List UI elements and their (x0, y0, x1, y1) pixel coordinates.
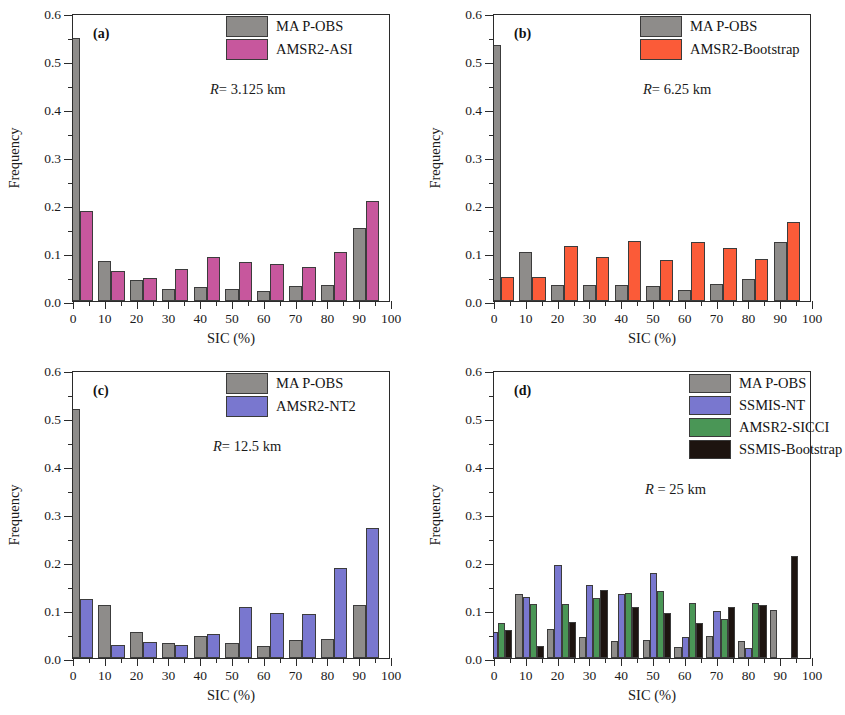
bar-a-60to70-amsr2-asi (270, 264, 283, 301)
y-axis-tick-a (64, 111, 73, 112)
x-axis-tick-label-b: 20 (551, 311, 565, 327)
legend-label: AMSR2-Bootstrap (690, 42, 800, 57)
y-axis-tick-b (485, 15, 494, 16)
x-axis-tick-label-d: 100 (802, 668, 822, 684)
annotation-rest-d: = 25 km (654, 481, 706, 497)
bar-d-40to50-ma-p-obs (611, 641, 618, 658)
bar-d-70to80-ma-p-obs (706, 636, 713, 658)
bar-b-10to20-ma-p-obs (519, 252, 532, 301)
annotation-resolution-a: R= 3.125 km (210, 81, 285, 98)
y-axis-tick-label-b: 0.2 (465, 199, 482, 215)
y-axis-minor-tick-b (489, 183, 494, 184)
bar-b-90to100-ma-p-obs (774, 242, 787, 301)
annotation-symbol-d: R (645, 481, 654, 497)
y-axis-tick-c (64, 420, 73, 421)
bar-c-10to20-amsr2-nt2 (111, 645, 124, 658)
bar-a-80to90-ma-p-obs (321, 285, 334, 301)
legend-item-d-1[interactable]: SSMIS-NT (689, 396, 842, 415)
bar-a-0to10-amsr2-asi (80, 211, 93, 301)
x-axis-tick-label-c: 0 (70, 668, 77, 684)
x-axis-tick-label-c: 90 (352, 668, 366, 684)
bar-d-60to70-amsr2-sicci (689, 603, 696, 658)
legend-item-c-0[interactable]: MA P-OBS (226, 373, 356, 394)
figure-root: 0.00.10.20.30.40.50.60102030405060708090… (0, 0, 845, 715)
bar-d-30to40-ssmis-nt (586, 585, 593, 658)
bar-c-50to60-ma-p-obs (225, 643, 238, 658)
y-axis-tick-label-c: 0.2 (44, 556, 61, 572)
x-axis-tick-b (780, 301, 781, 309)
y-axis-tick-label-b: 0.6 (465, 7, 482, 23)
x-axis-tick-label-d: 10 (519, 668, 533, 684)
y-axis-tick-c (64, 564, 73, 565)
panel-d: 0.00.10.20.30.40.50.60102030405060708090… (421, 357, 843, 714)
legend-swatch-icon (226, 16, 268, 37)
x-axis-minor-tick-b (669, 301, 670, 306)
y-axis-title-c: Frequency (6, 484, 23, 545)
x-axis-tick-label-a: 80 (321, 311, 335, 327)
x-axis-tick-label-a: 60 (257, 311, 271, 327)
x-axis-tick-b (526, 301, 527, 309)
y-axis-tick-label-d: 0.0 (465, 652, 482, 668)
bar-c-20to30-ma-p-obs (130, 632, 143, 658)
y-axis-tick-d (485, 612, 494, 613)
bar-c-40to50-amsr2-nt2 (207, 634, 220, 658)
bar-b-50to60-ma-p-obs (646, 286, 659, 301)
x-axis-tick-a (296, 301, 297, 309)
bar-c-30to40-ma-p-obs (162, 643, 175, 658)
panel-label-a: (a) (93, 26, 109, 42)
bar-c-90to100-ma-p-obs (353, 605, 366, 658)
x-axis-minor-tick-b (510, 301, 511, 306)
y-axis-minor-tick-a (68, 87, 73, 88)
legend-label: MA P-OBS (690, 19, 757, 34)
x-axis-tick-d (621, 658, 622, 666)
x-axis-minor-tick-b (574, 301, 575, 306)
x-axis-minor-tick-b (796, 301, 797, 306)
y-axis-tick-label-c: 0.1 (44, 604, 61, 620)
bar-d-80to90-amsr2-sicci (752, 603, 759, 658)
x-axis-tick-label-a: 100 (381, 311, 401, 327)
legend-b: MA P-OBSAMSR2-Bootstrap (640, 16, 800, 60)
x-axis-tick-label-c: 40 (193, 668, 207, 684)
y-axis-tick-label-d: 0.4 (465, 460, 482, 476)
x-axis-tick-d (558, 658, 559, 666)
legend-swatch-icon (226, 373, 268, 394)
y-axis-tick-b (485, 207, 494, 208)
legend-item-d-2[interactable]: AMSR2-SICCI (689, 418, 842, 437)
legend-item-d-3[interactable]: SSMIS-Bootstrap (689, 440, 842, 459)
x-axis-tick-c (105, 658, 106, 666)
y-axis-minor-tick-a (68, 279, 73, 280)
y-axis-tick-label-c: 0.3 (44, 508, 61, 524)
y-axis-tick-label-b: 0.4 (465, 103, 482, 119)
x-axis-tick-label-d: 60 (678, 668, 692, 684)
bar-b-30to40-amsr2-bootstrap (596, 257, 609, 301)
x-axis-minor-tick-a (184, 301, 185, 306)
annotation-rest-c: = 12.5 km (222, 438, 281, 454)
x-axis-tick-label-c: 60 (257, 668, 271, 684)
x-axis-tick-label-a: 90 (352, 311, 366, 327)
x-axis-minor-tick-a (121, 301, 122, 306)
legend-item-d-0[interactable]: MA P-OBS (689, 374, 842, 393)
x-axis-minor-tick-a (89, 301, 90, 306)
x-axis-tick-label-d: 50 (646, 668, 660, 684)
legend-item-a-1[interactable]: AMSR2-ASI (226, 39, 353, 60)
annotation-rest-b: = 6.25 km (652, 81, 711, 97)
y-axis-minor-tick-d (489, 588, 494, 589)
legend-swatch-icon (689, 440, 731, 459)
y-axis-tick-d (485, 372, 494, 373)
x-axis-tick-label-a: 30 (162, 311, 176, 327)
legend-swatch-icon (689, 374, 731, 393)
legend-item-a-0[interactable]: MA P-OBS (226, 16, 353, 37)
x-axis-minor-tick-c (375, 658, 376, 663)
legend-item-c-1[interactable]: AMSR2-NT2 (226, 396, 356, 417)
y-axis-tick-c (64, 612, 73, 613)
x-axis-tick-b (621, 301, 622, 309)
bar-c-60to70-ma-p-obs (257, 646, 270, 658)
y-axis-tick-label-b: 0.3 (465, 151, 482, 167)
y-axis-minor-tick-c (68, 492, 73, 493)
legend-a: MA P-OBSAMSR2-ASI (226, 16, 353, 60)
y-axis-minor-tick-a (68, 39, 73, 40)
y-axis-tick-label-a: 0.0 (44, 295, 61, 311)
legend-item-b-0[interactable]: MA P-OBS (640, 16, 800, 37)
x-axis-tick-label-b: 70 (710, 311, 724, 327)
legend-item-b-1[interactable]: AMSR2-Bootstrap (640, 39, 800, 60)
